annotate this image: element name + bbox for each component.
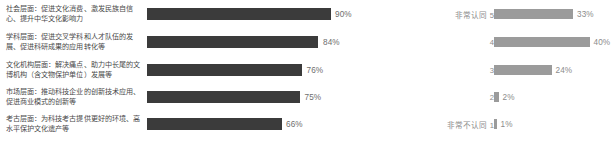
value-label: 24%	[556, 66, 573, 75]
bar	[494, 37, 590, 47]
bar-row: 非常不认同 1 1%	[430, 110, 616, 138]
value-label: 75%	[305, 93, 322, 102]
category-label: 非常认同 5	[455, 9, 494, 20]
bar-track: 66%	[147, 118, 347, 130]
category-label: 市场层面：推动科技企业的创新技术应用、促进商业模式的创新等	[6, 87, 146, 107]
bar-row: 4 40%	[430, 28, 616, 56]
bar-track: 33%	[494, 9, 614, 19]
bar-track: 1%	[494, 119, 614, 129]
chart-page: 社会层面：促进文化消费、激发民族自信心、提升中华文化影响力 90% 学科层面：促…	[0, 0, 616, 143]
bar-track: 84%	[147, 36, 347, 48]
value-label: 40%	[594, 38, 611, 47]
value-label: 66%	[286, 120, 303, 129]
bar-row: 市场层面：推动科技企业的创新技术应用、促进商业模式的创新等 75%	[0, 83, 400, 111]
bar-row: 2 2%	[430, 83, 616, 111]
value-label: 1%	[501, 120, 513, 129]
bar	[494, 119, 497, 129]
bar-row: 考古层面：为科技考古提供更好的环境、高水平保护文化遗产等 66%	[0, 110, 400, 138]
bar-track: 24%	[494, 65, 614, 75]
category-label: 非常不认同 1	[447, 119, 494, 130]
value-label: 33%	[577, 10, 594, 19]
bar-track: 90%	[147, 8, 347, 20]
value-label: 76%	[307, 66, 324, 75]
bar	[494, 92, 499, 102]
value-label: 90%	[335, 10, 352, 19]
bar-track: 40%	[494, 37, 614, 47]
bar	[147, 36, 318, 48]
category-label: 考古层面：为科技考古提供更好的环境、高水平保护文化遗产等	[6, 114, 146, 134]
value-label: 2%	[503, 93, 515, 102]
bar	[147, 8, 331, 20]
bar-track: 2%	[494, 92, 614, 102]
bar	[147, 64, 302, 76]
bar-track: 76%	[147, 64, 347, 76]
bar	[494, 65, 552, 75]
bar-row: 非常认同 5 33%	[430, 0, 616, 28]
bar-row: 3 24%	[430, 56, 616, 84]
bar	[494, 9, 573, 19]
bar-row: 文化机构层面：解决痛点、助力中长尾的文博机构（含文物保护单位）发展等 76%	[0, 56, 400, 84]
category-label: 社会层面：促进文化消费、激发民族自信心、提升中华文化影响力	[6, 4, 146, 24]
value-label: 84%	[323, 38, 340, 47]
category-label: 学科层面：促进交叉学科和人才队伍的发展、促进科研成果的应用转化等	[6, 32, 146, 52]
bar-track: 75%	[147, 91, 347, 103]
category-label: 文化机构层面：解决痛点、助力中长尾的文博机构（含文物保护单位）发展等	[6, 60, 146, 80]
bar-row: 学科层面：促进交叉学科和人才队伍的发展、促进科研成果的应用转化等 84%	[0, 28, 400, 56]
likert-agreement-chart: 非常认同 5 33% 4 40% 3 24% 2 2%	[430, 0, 616, 143]
benefit-dimensions-chart: 社会层面：促进文化消费、激发民族自信心、提升中华文化影响力 90% 学科层面：促…	[0, 0, 400, 143]
bar	[147, 91, 300, 103]
bar-row: 社会层面：促进文化消费、激发民族自信心、提升中华文化影响力 90%	[0, 0, 400, 28]
bar	[147, 118, 282, 130]
